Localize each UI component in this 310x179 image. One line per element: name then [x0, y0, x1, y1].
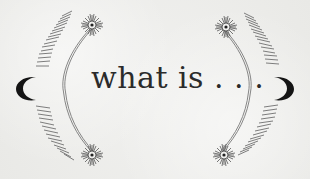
right-upper-hatching	[244, 13, 279, 64]
right-crescent-moon-icon	[274, 77, 294, 100]
right-bottom-sunburst-icon	[213, 144, 235, 166]
left-bracket-arc	[63, 29, 94, 152]
left-top-sunburst-icon	[81, 14, 103, 36]
left-bottom-sunburst-icon	[81, 144, 103, 166]
title-card: what is . . .	[0, 0, 310, 179]
left-upper-hatching	[36, 11, 72, 66]
heading-text: what is . . .	[91, 63, 264, 93]
right-top-sunburst-icon	[215, 16, 237, 38]
left-crescent-moon-icon	[16, 77, 36, 100]
